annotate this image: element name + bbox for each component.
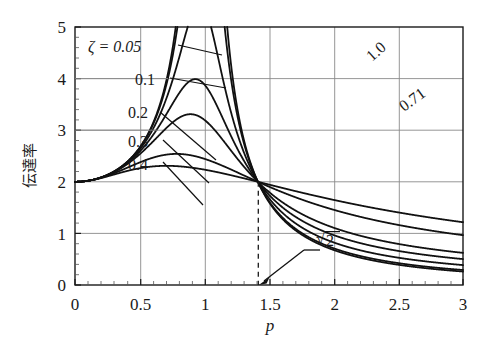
x-tick-15: 1.5 [259, 295, 280, 314]
y-tick-5: 5 [58, 18, 67, 37]
y-tick-2: 2 [58, 173, 67, 192]
x-tick-2: 2 [330, 295, 339, 314]
label-zeta-005: ζ = 0.05 [88, 38, 141, 56]
y-tick-4: 4 [58, 70, 67, 89]
sqrt2-label: 2 [326, 232, 334, 249]
chart-figure: √ 2 ζ = 0.05 0.1 0.2 0.3 0.4 1.0 0.71 5 … [0, 0, 488, 338]
y-tick-3: 3 [58, 121, 67, 140]
x-tick-25: 2.5 [389, 295, 410, 314]
y-tick-1: 1 [58, 225, 67, 244]
label-zeta-02: 0.2 [128, 104, 148, 121]
label-zeta-04: 0.4 [128, 156, 148, 173]
label-zeta-03: 0.3 [128, 133, 148, 150]
x-tick-1: 1 [201, 295, 210, 314]
x-tick-3: 3 [459, 295, 468, 314]
transmissibility-chart: √ 2 ζ = 0.05 0.1 0.2 0.3 0.4 1.0 0.71 5 … [0, 0, 488, 338]
sqrt-radical-icon: √ [316, 230, 325, 247]
label-zeta-01: 0.1 [135, 71, 155, 88]
x-tick-05: 0.5 [130, 295, 151, 314]
y-tick-0: 0 [58, 276, 67, 295]
x-axis-title: p [265, 316, 275, 335]
x-tick-0: 0 [71, 295, 80, 314]
chart-background [0, 0, 488, 338]
y-axis-title: 伝達率 [21, 143, 38, 188]
